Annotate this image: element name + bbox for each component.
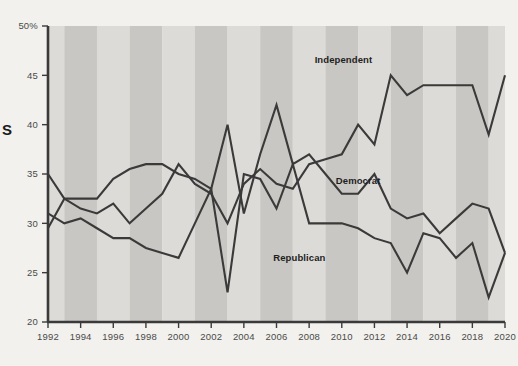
x-tick-label: 2008 [298,331,320,342]
series-label-republican: Republican [273,252,325,263]
y-tick-label: 25 [27,267,38,278]
chart-container: 20253035404550% 199219941996199820002002… [0,0,518,366]
year-band [195,26,228,322]
year-bands [48,26,505,322]
x-tick-label: 2010 [331,331,353,342]
x-tick-label: 2000 [168,331,190,342]
x-tick-label: 2012 [363,331,385,342]
year-band [97,26,130,322]
year-band [293,26,326,322]
x-tick-label: 2004 [233,331,255,342]
year-band [130,26,163,322]
x-tick-label: 2016 [429,331,451,342]
y-tick-label: 20 [27,316,38,327]
y-tick-label: 40 [27,119,38,130]
x-tick-label: 1998 [135,331,157,342]
year-band [423,26,456,322]
series-label-democrat: Democrat [336,175,381,186]
year-band [64,26,97,322]
year-band [48,26,64,322]
y-tick-label: 30 [27,218,38,229]
x-tick-label: 2002 [200,331,222,342]
series-label-independent: Independent [315,54,373,65]
x-tick-label: 2014 [396,331,418,342]
x-tick-label: 2006 [266,331,288,342]
line-chart: 20253035404550% 199219941996199820002002… [0,0,518,366]
x-tick-label: 2018 [461,331,483,342]
cropped-edge-glyph: S [2,121,12,138]
x-tick-label: 1994 [70,331,92,342]
y-tick-label: 45 [27,70,38,81]
x-tick-label: 2020 [494,331,516,342]
year-band [391,26,424,322]
y-tick-label: 35 [27,168,38,179]
x-tick-label: 1996 [102,331,124,342]
y-tick-label: 50% [18,20,38,31]
x-tick-label: 1992 [37,331,59,342]
